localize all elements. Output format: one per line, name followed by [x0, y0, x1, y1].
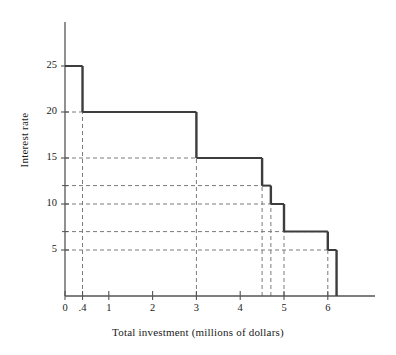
x-tick-label: 1	[99, 302, 119, 313]
investment-demand-chart: Interest rate Total investment (millions…	[0, 0, 396, 355]
x-tick-label: 3	[186, 302, 206, 313]
x-tick-label: 2	[143, 302, 163, 313]
y-tick-label: 15	[31, 151, 57, 162]
guide-lines-group	[65, 66, 337, 296]
x-tick-label: 4	[230, 302, 250, 313]
y-tick-label: 25	[31, 59, 57, 70]
x-tick-label: 5	[274, 302, 294, 313]
x-tick-label: .4	[73, 302, 93, 313]
y-tick-label: 10	[31, 197, 57, 208]
step-curve-group	[65, 66, 337, 296]
x-tick-label: 6	[318, 302, 338, 313]
y-tick-label: 5	[31, 243, 57, 254]
tick-marks-group	[61, 66, 328, 300]
y-tick-label: 20	[31, 105, 57, 116]
